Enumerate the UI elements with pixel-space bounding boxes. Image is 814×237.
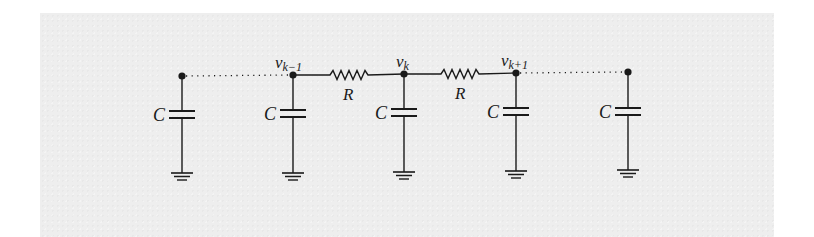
capacitor-label-3: C xyxy=(375,103,388,123)
dotted-link-right xyxy=(520,72,624,73)
resistor-1 xyxy=(293,71,404,80)
capacitor-label-1: C xyxy=(153,105,166,125)
capacitor-branch-1 xyxy=(169,76,195,180)
node-label-v-k: vk xyxy=(396,52,410,73)
capacitor-branch-2 xyxy=(280,75,306,180)
node-label-v-k-minus-1: vk−1 xyxy=(275,53,302,74)
capacitor-label-5: C xyxy=(599,102,612,122)
capacitor-label-4: C xyxy=(487,102,500,122)
capacitor-branch-5 xyxy=(615,72,641,177)
capacitor-branch-3 xyxy=(391,74,417,179)
resistor-label-1: R xyxy=(342,85,354,104)
node-dot-left-end xyxy=(178,72,185,79)
rc-ladder-circuit: vk−1 vk vk+1 R R C C C C C xyxy=(0,0,814,237)
resistor-2 xyxy=(404,70,516,79)
capacitor-label-2: C xyxy=(264,104,277,124)
node-label-v-k-plus-1: vk+1 xyxy=(501,51,528,72)
node-dot-right-end xyxy=(624,68,631,75)
resistor-label-2: R xyxy=(454,84,466,103)
dotted-link-left xyxy=(186,75,289,76)
capacitor-branch-4 xyxy=(503,73,529,178)
